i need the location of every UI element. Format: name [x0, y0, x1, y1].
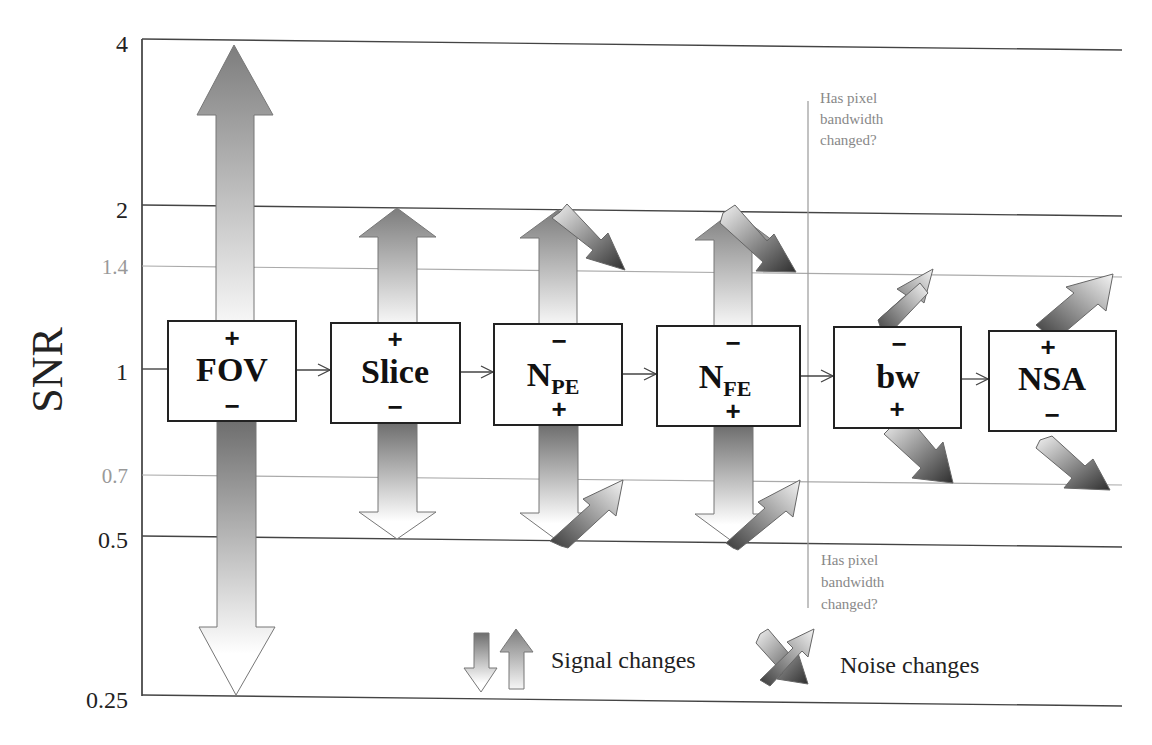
legend-signal-up-icon: [500, 629, 533, 689]
svg-text:changed?: changed?: [820, 132, 877, 148]
note-upper: Has pixel bandwidth changed?: [820, 90, 884, 148]
gridline-0.7: [142, 475, 1122, 485]
box-fov: + FOV −: [168, 321, 296, 421]
svg-text:changed?: changed?: [821, 596, 878, 612]
bw-top-sign: −: [891, 329, 906, 359]
legend: Signal changes Noise changes: [464, 629, 979, 692]
nsa-noise-up-right-arrow: [1036, 274, 1113, 338]
note-lower: Has pixel bandwidth changed?: [821, 552, 885, 612]
box-bw: − bw +: [834, 327, 961, 428]
box-npe: − NPE +: [494, 324, 622, 425]
tick-label-1.4: 1.4: [102, 255, 129, 279]
slice-label: Slice: [361, 353, 429, 390]
nfe-label: N: [699, 358, 724, 395]
box-nfe: − NFE +: [657, 326, 800, 426]
slice-signal-down-arrow: [359, 423, 436, 539]
npe-top-sign: −: [551, 326, 566, 356]
nsa-bottom-sign: −: [1044, 400, 1059, 430]
gridline-2: [142, 205, 1122, 216]
box-nsa: + NSA −: [989, 331, 1116, 431]
slice-top-sign: +: [387, 324, 402, 354]
fov-signal-up-arrow: [197, 45, 273, 321]
tick-label-0.5: 0.5: [98, 527, 128, 553]
nfe-top-sign: −: [725, 328, 740, 358]
y-axis-title: SNR: [23, 327, 72, 413]
nsa-label: NSA: [1018, 360, 1086, 397]
npe-label: N: [527, 356, 552, 393]
tick-label-2: 2: [116, 197, 128, 223]
svg-text:Has pixel: Has pixel: [821, 552, 878, 568]
bw-bottom-sign: +: [889, 394, 904, 424]
tick-label-0.25: 0.25: [86, 687, 128, 713]
tick-label-0.7: 0.7: [102, 464, 128, 488]
nsa-top-sign: +: [1040, 332, 1055, 362]
fov-signal-down-arrow: [199, 421, 275, 695]
box-slice: + Slice −: [331, 323, 460, 423]
slice-signal-up-arrow: [359, 208, 436, 323]
nsa-noise-down-right-arrow: [1036, 436, 1110, 490]
fov-top-sign: +: [224, 323, 239, 353]
npe-bottom-sign: +: [551, 394, 566, 424]
nfe-bottom-sign: +: [725, 396, 740, 426]
svg-text:Has pixel: Has pixel: [820, 90, 877, 106]
bw-label: bw: [876, 358, 920, 395]
legend-signal-label: Signal changes: [551, 647, 696, 673]
tick-label-4: 4: [116, 31, 128, 57]
gridline-0.25: [142, 695, 1122, 706]
legend-signal-down-icon: [464, 633, 497, 692]
snr-diagram: SNR 4 2 1.4 1 0.7 0.5 0.25 Has pixel ban…: [0, 0, 1152, 745]
fov-label: FOV: [196, 351, 268, 388]
gridline-0.5: [142, 536, 1122, 547]
gridline-4: [142, 39, 1122, 50]
legend-noise-label: Noise changes: [840, 652, 979, 678]
slice-bottom-sign: −: [387, 392, 402, 422]
svg-text:bandwidth: bandwidth: [821, 574, 885, 590]
svg-text:bandwidth: bandwidth: [820, 111, 884, 127]
gridline-1.4: [142, 266, 1122, 277]
fov-bottom-sign: −: [224, 391, 239, 421]
tick-label-1: 1: [116, 359, 128, 385]
